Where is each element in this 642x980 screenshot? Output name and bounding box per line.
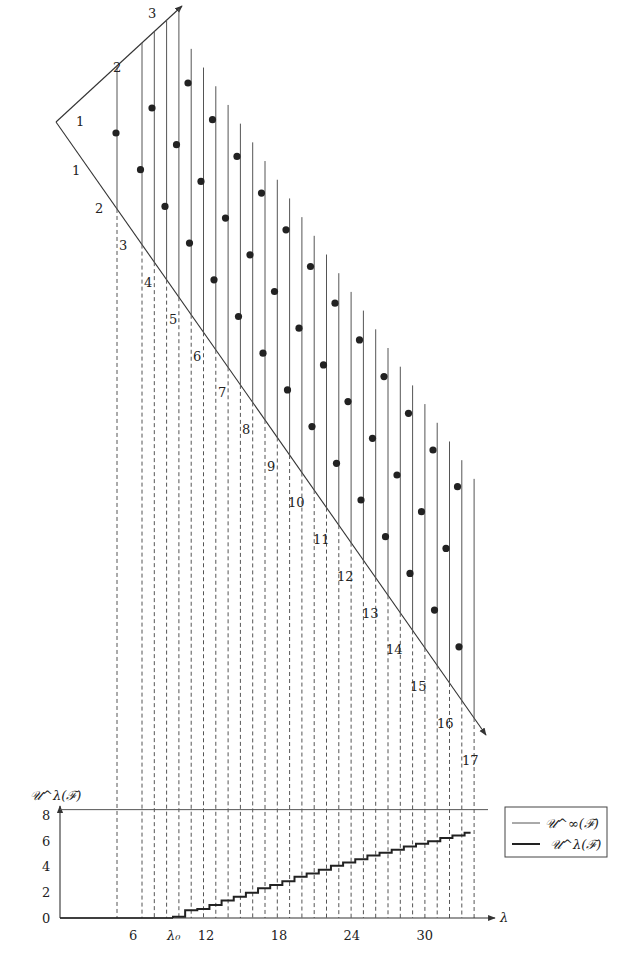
data-dot [137, 166, 144, 173]
diagonal-edge-label: 9 [267, 459, 275, 474]
data-dot [357, 496, 364, 503]
data-dot [320, 361, 327, 368]
data-dot [331, 300, 338, 307]
y-tick-label: 6 [42, 834, 50, 849]
diagonal-edge-label: 11 [313, 532, 330, 547]
data-dot [173, 141, 180, 148]
data-dot [380, 373, 387, 380]
diagonal-edge-label: 16 [437, 716, 454, 731]
data-dot [418, 508, 425, 515]
data-dot [112, 129, 119, 136]
step-chart: 024686λ₀12182430 [42, 806, 495, 943]
top-edge-label: 3 [148, 6, 156, 21]
data-dot [333, 460, 340, 467]
data-dot [369, 435, 376, 442]
data-dot [282, 226, 289, 233]
diagonal-edge-label: 6 [193, 349, 201, 364]
data-dot [455, 643, 462, 650]
diagonal-edge-label: 10 [288, 495, 305, 510]
data-dot [209, 116, 216, 123]
data-dot [429, 446, 436, 453]
x-tick-label: 12 [198, 928, 215, 943]
diagonal-edge-label: 3 [119, 238, 127, 253]
data-dot [406, 570, 413, 577]
diagonal-edge-label: 2 [95, 201, 103, 216]
top-edge-label: 2 [113, 60, 121, 75]
diagonal-edge-label: 5 [169, 312, 177, 327]
x-tick-label: λ₀ [166, 928, 181, 943]
diagonal-edge-label: 4 [144, 275, 152, 290]
legend-label-lambda: 𝒰^λ(ℱ) [550, 837, 601, 852]
data-dot [454, 483, 461, 490]
y-tick-label: 0 [42, 911, 50, 926]
data-dot [210, 276, 217, 283]
data-dot [393, 471, 400, 478]
data-dot [186, 240, 193, 247]
data-dot [161, 203, 168, 210]
diagonal-edge-arrow [56, 122, 486, 735]
x-tick-label: 30 [417, 928, 434, 943]
y-axis-label: 𝒰^λ(ℱ) [30, 788, 81, 803]
x-tick-label: 18 [271, 928, 288, 943]
series-line-lambda [173, 833, 471, 918]
data-dot [344, 398, 351, 405]
data-dot [308, 423, 315, 430]
diagonal-edge-label: 17 [462, 753, 479, 768]
data-dot [271, 288, 278, 295]
data-dot [233, 153, 240, 160]
data-dot [246, 251, 253, 258]
triangle-diagram: 1231234567891011121314151617 [56, 6, 486, 918]
x-tick-label: 6 [129, 928, 137, 943]
data-dot [405, 410, 412, 417]
data-dot [259, 350, 266, 357]
diagonal-edge-label: 8 [242, 422, 250, 437]
legend: 𝒰^∞(ℱ) 𝒰^λ(ℱ) [505, 807, 607, 857]
data-dot [258, 190, 265, 197]
data-dot [222, 215, 229, 222]
y-tick-label: 4 [42, 859, 50, 874]
data-dot [235, 313, 242, 320]
data-dot [184, 79, 191, 86]
diagonal-edge-label: 15 [410, 679, 427, 694]
data-dot [148, 104, 155, 111]
diagonal-edge-label: 14 [386, 642, 403, 657]
data-dot [356, 336, 363, 343]
diagonal-edge-label: 13 [362, 606, 379, 621]
x-tick-label: 24 [344, 928, 361, 943]
y-tick-label: 8 [42, 808, 50, 823]
data-dot [295, 325, 302, 332]
data-dot [442, 545, 449, 552]
data-dot [382, 533, 389, 540]
legend-label-infinity: 𝒰^∞(ℱ) [545, 816, 599, 831]
x-axis-label: λ [499, 910, 508, 925]
data-dot [431, 607, 438, 614]
data-dot [307, 263, 314, 270]
diagonal-edge-label: 12 [337, 569, 354, 584]
diagonal-edge-label: 1 [72, 163, 80, 178]
figure: 1231234567891011121314151617 024686λ₀121… [0, 0, 642, 980]
data-dot [197, 178, 204, 185]
y-tick-label: 2 [42, 885, 50, 900]
data-dot [284, 386, 291, 393]
diagonal-edge-label: 7 [218, 385, 226, 400]
top-edge-label: 1 [76, 114, 84, 129]
